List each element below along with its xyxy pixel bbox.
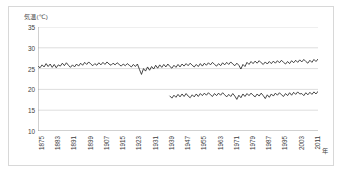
x-tick-label: 1891 [70, 136, 77, 150]
x-tick-label: 1899 [87, 136, 94, 150]
data-series-group [38, 59, 318, 99]
x-tick-label: 1939 [168, 136, 175, 150]
x-tick-label: 1947 [184, 136, 191, 150]
x-tick-label: 1875 [38, 136, 45, 150]
x-tick-label: 2003 [298, 136, 305, 150]
series-line-upper-series [38, 59, 318, 74]
x-axis-unit-label: 年 [322, 146, 328, 155]
y-tick-label: 15 [28, 107, 35, 114]
x-tick-label: 1955 [200, 136, 207, 150]
x-tick-label: 1963 [217, 136, 224, 150]
x-tick-label: 1995 [281, 136, 288, 150]
x-tick-label: 1979 [249, 136, 256, 150]
x-tick-label: 1907 [103, 136, 110, 150]
y-tick-label: 30 [28, 44, 35, 51]
y-tick-label: 20 [28, 86, 35, 93]
x-tick-label: 1931 [152, 136, 159, 150]
x-tick-label: 1987 [265, 136, 272, 150]
series-line-lower-series [170, 91, 318, 99]
x-axis-tick-labels: 1875188318911899190719151923193119391947… [38, 136, 328, 170]
chart-figure: 気温(℃) 101520253035 187518831891189919071… [0, 0, 342, 178]
y-axis-title: 気温(℃) [24, 12, 48, 21]
x-tick-label: 1923 [135, 136, 142, 150]
plot-area [38, 27, 318, 131]
y-tick-label: 35 [28, 24, 35, 31]
x-tick-label: 1971 [233, 136, 240, 150]
x-tick-label: 2011 [314, 136, 321, 150]
y-tick-label: 10 [28, 128, 35, 135]
y-tick-label: 25 [28, 65, 35, 72]
plot-area-wrapper [38, 27, 318, 131]
x-tick-label: 1883 [54, 136, 61, 150]
y-axis-tick-labels: 101520253035 [20, 27, 35, 131]
x-tick-label: 1915 [119, 136, 126, 150]
gridlines [38, 27, 318, 110]
